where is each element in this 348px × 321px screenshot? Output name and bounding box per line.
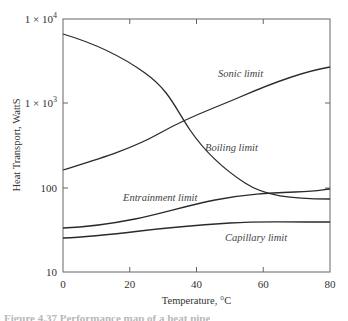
capillary-limit-label: Capillary limit bbox=[225, 232, 288, 243]
plot-frame bbox=[63, 19, 330, 272]
entrainment-limit-label: Entrainment limit bbox=[122, 192, 198, 203]
curves bbox=[63, 34, 330, 238]
y-axis-title: Heat Transport, WattS bbox=[11, 98, 22, 191]
sonic-limit-label: Sonic limit bbox=[218, 68, 264, 79]
y-tick-1e3: 1 × 103 bbox=[25, 95, 57, 109]
x-tick-60: 60 bbox=[258, 278, 270, 290]
boiling-limit-label: Boiling limit bbox=[205, 142, 259, 153]
x-tick-40: 40 bbox=[191, 278, 203, 290]
x-tick-0: 0 bbox=[60, 278, 66, 290]
x-axis-title: Temperature, °C bbox=[162, 295, 231, 306]
figure-caption: Figure 4.37 Performance map of a heat pi… bbox=[4, 312, 210, 321]
sonic-limit-curve bbox=[63, 67, 330, 170]
heat-transport-chart: 1 × 104 1 × 103 100 10 0 20 40 60 80 Tem… bbox=[0, 0, 348, 321]
y-tick-100: 100 bbox=[41, 182, 58, 194]
y-tick-1e4: 1 × 104 bbox=[25, 11, 57, 25]
boiling-limit-curve bbox=[63, 34, 330, 199]
x-tick-20: 20 bbox=[124, 278, 136, 290]
y-tick-10: 10 bbox=[46, 266, 58, 278]
x-tick-80: 80 bbox=[325, 278, 337, 290]
